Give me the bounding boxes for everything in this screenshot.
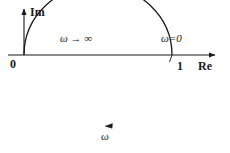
omega-direction-arrow-icon: [105, 124, 113, 129]
nyquist-plot-figure: Im Re 0 1 ω → ∞ ω=0 ω: [0, 0, 230, 153]
real-axis-tick-one: [170, 55, 173, 62]
real-axis-tick-label-one: 1: [177, 60, 183, 72]
imaginary-axis-label: Im: [30, 6, 45, 18]
nyquist-plot-canvas: [0, 0, 230, 153]
nyquist-locus-curve: [24, 0, 172, 55]
annotation-omega-to-infinity: ω → ∞: [60, 33, 92, 44]
origin-label: 0: [10, 58, 16, 70]
annotation-omega-equals-zero: ω=0: [161, 33, 182, 44]
real-axis-label: Re: [198, 60, 212, 72]
annotation-omega-direction: ω: [101, 131, 109, 142]
